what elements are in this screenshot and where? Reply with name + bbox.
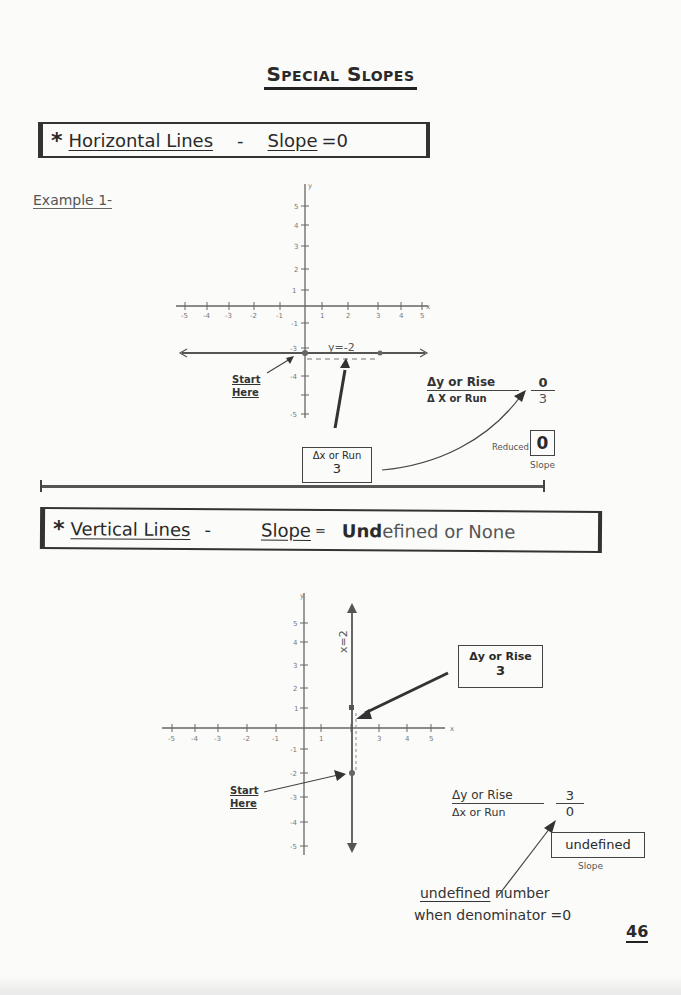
reduced-slope-caption: Slope	[530, 460, 555, 470]
svg-text:2: 2	[293, 685, 297, 693]
page-number: 46	[626, 922, 648, 943]
svg-text:-3: -3	[214, 735, 221, 743]
run-box: Δx or Run 3	[302, 447, 372, 483]
svg-text:5: 5	[420, 312, 424, 320]
slope-label: Slope	[261, 519, 311, 540]
svg-text:y=-2: y=-2	[328, 341, 355, 354]
svg-text:4: 4	[294, 222, 299, 230]
start-here-label-2: Start Here	[230, 784, 258, 810]
svg-text:5: 5	[293, 620, 297, 628]
undefined-note: undefined number when denominator =0	[414, 882, 571, 926]
page-title: Special Slopes	[0, 62, 681, 86]
slope-label: Slope	[268, 130, 318, 151]
svg-text:-2: -2	[243, 735, 250, 743]
slope-fraction-2: Δy or Rise 3 Δx or Run 0	[452, 788, 602, 819]
svg-text:x: x	[450, 725, 454, 733]
svg-text:5: 5	[294, 203, 298, 211]
vertical-lines-header: * Vertical Lines - Slope = Undefined or …	[40, 507, 602, 553]
vertical-line-graph: y x -5-4-3-2-1 1345 54321 -1-2-3-4-5 x=2	[150, 585, 470, 860]
reduced-slope-box: 0	[530, 430, 555, 456]
slope-value: Undefined or None	[342, 520, 516, 542]
svg-text:x: x	[426, 303, 430, 311]
svg-text:-1: -1	[276, 312, 283, 320]
svg-text:-5: -5	[168, 735, 175, 743]
star-icon: *	[53, 516, 65, 541]
horizontal-lines-header: * Horizontal Lines - Slope =0	[38, 122, 430, 158]
svg-text:-3: -3	[290, 794, 297, 802]
svg-text:-4: -4	[290, 373, 298, 381]
section-divider	[40, 485, 545, 488]
svg-text:4: 4	[399, 312, 404, 320]
svg-text:-2: -2	[250, 312, 257, 320]
svg-text:-4: -4	[191, 735, 199, 743]
scan-edge	[0, 975, 681, 995]
svg-text:y: y	[300, 592, 304, 600]
svg-text:-5: -5	[290, 843, 297, 851]
svg-text:y: y	[308, 182, 312, 190]
svg-text:x=2: x=2	[337, 630, 350, 653]
svg-text:-1: -1	[290, 746, 297, 754]
svg-text:-5: -5	[181, 312, 188, 320]
svg-text:3: 3	[293, 662, 297, 670]
slope-value: =0	[322, 130, 349, 151]
vertical-lines-heading: Vertical Lines	[70, 518, 190, 540]
svg-text:4: 4	[405, 735, 410, 743]
svg-text:-2: -2	[290, 770, 297, 778]
reduced-label: Reduced	[492, 442, 529, 452]
svg-text:-3: -3	[225, 312, 232, 320]
svg-text:-5: -5	[290, 411, 297, 419]
svg-text:1: 1	[294, 705, 298, 713]
svg-text:1: 1	[320, 312, 324, 320]
svg-text:-4: -4	[290, 819, 298, 827]
svg-text:-1: -1	[272, 735, 279, 743]
undefined-slope-box: undefined	[551, 832, 645, 858]
svg-text:3: 3	[376, 312, 380, 320]
rise-box: Δy or Rise 3	[458, 645, 543, 688]
start-here-label-1: Start Here	[232, 373, 260, 399]
svg-text:1: 1	[292, 287, 296, 295]
horizontal-lines-heading: Horizontal Lines	[69, 130, 214, 151]
svg-text:5: 5	[429, 735, 433, 743]
slope-fraction-1: Δy or Rise 0 Δ X or Run 3	[427, 375, 577, 406]
example-label: Example 1-	[33, 192, 112, 209]
svg-text:2: 2	[294, 266, 298, 274]
svg-text:3: 3	[294, 243, 298, 251]
svg-text:-4: -4	[203, 312, 211, 320]
svg-text:3: 3	[377, 735, 381, 743]
svg-text:-3: -3	[290, 345, 297, 353]
svg-text:1: 1	[319, 735, 323, 743]
svg-text:-1: -1	[291, 320, 298, 328]
undefined-slope-caption: Slope	[578, 861, 603, 871]
star-icon: *	[51, 128, 63, 153]
svg-text:2: 2	[346, 312, 350, 320]
svg-text:4: 4	[293, 639, 298, 647]
